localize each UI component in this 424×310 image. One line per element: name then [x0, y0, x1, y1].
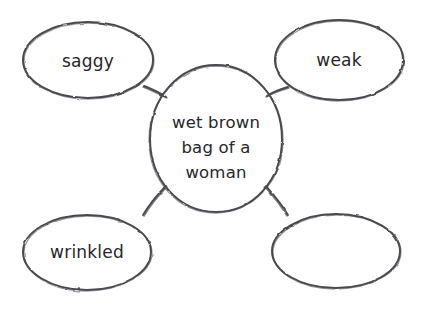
- bubble-wrinkled-label: wrinkled: [50, 242, 124, 262]
- bubble-weak-label: weak: [316, 50, 361, 70]
- diagram-canvas: wet brown bag of a woman saggy weak wrin…: [0, 0, 424, 310]
- center-bubble-line-2: bag of a: [181, 138, 250, 157]
- bubble-map-diagram: wet brown bag of a woman saggy weak wrin…: [0, 0, 424, 310]
- bubble-saggy-label: saggy: [62, 51, 114, 71]
- center-bubble-line-1: wet brown: [172, 113, 260, 132]
- center-bubble-line-3: woman: [185, 163, 246, 182]
